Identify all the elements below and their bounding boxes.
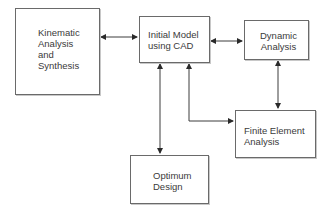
arrow-initial-fea bbox=[189, 64, 233, 121]
node-label: Initial Model using CAD bbox=[148, 29, 199, 51]
node-label: Dynamic Analysis bbox=[260, 30, 297, 52]
node-label: Optimum Design bbox=[153, 170, 192, 192]
node-finite-element-analysis: Finite Element Analysis bbox=[235, 110, 316, 158]
node-optimum-design: Optimum Design bbox=[130, 155, 209, 204]
node-kinematic-analysis: Kinematic Analysis and Synthesis bbox=[15, 8, 100, 95]
node-label: Finite Element Analysis bbox=[244, 125, 305, 147]
node-dynamic-analysis: Dynamic Analysis bbox=[244, 20, 309, 60]
node-initial-model: Initial Model using CAD bbox=[139, 16, 210, 63]
node-label: Kinematic Analysis and Synthesis bbox=[38, 27, 80, 71]
